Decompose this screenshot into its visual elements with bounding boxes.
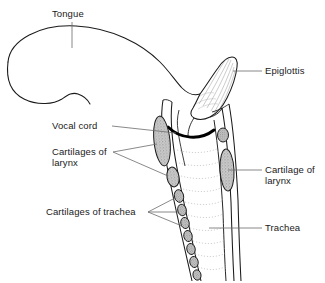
leader-cartilages-larynx-1 <box>113 144 157 152</box>
label-cartilage-of-larynx-line2: larynx <box>265 175 291 187</box>
anatomy-diagram: Tongue Epiglottis Vocal cord Cartilages … <box>0 0 325 283</box>
label-epiglottis: Epiglottis <box>265 65 305 77</box>
laryngeal-cartilage-anterior <box>151 115 172 166</box>
label-trachea: Trachea <box>265 222 300 234</box>
vocal-cord <box>168 127 214 137</box>
label-vocal-cord: Vocal cord <box>52 120 97 132</box>
label-tongue: Tongue <box>52 8 84 20</box>
tongue-outline <box>8 26 200 104</box>
label-cartilages-of-trachea: Cartilages of trachea <box>46 206 136 218</box>
label-cartilages-of-larynx-line1: Cartilages of <box>52 146 107 158</box>
leader-cartilages-trachea-1 <box>148 198 175 212</box>
label-cartilage-of-larynx-line1: Cartilage of <box>265 164 315 176</box>
label-cartilages-of-larynx-line2: larynx <box>52 157 78 169</box>
laryngeal-cartilage-posterior <box>218 128 236 191</box>
epiglottis-structure <box>188 57 237 136</box>
anatomy-illustration <box>0 0 325 283</box>
